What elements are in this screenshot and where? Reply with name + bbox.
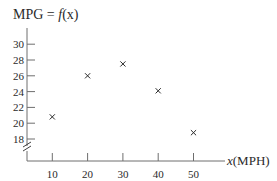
y-tick-label: 26: [13, 70, 25, 82]
scatter-chart: MPG = f(x) 18202224262830 1020304050 x(M…: [0, 0, 277, 181]
title-lhs: MPG =: [13, 7, 58, 22]
data-point-x-marker: [85, 73, 90, 78]
chart-title: MPG = f(x): [13, 7, 79, 23]
x-axis-ticks: 1020304050: [47, 153, 200, 180]
x-tick-label: 50: [188, 168, 200, 180]
x-axis-unit: (MPH): [233, 153, 270, 168]
y-tick-label: 18: [13, 133, 25, 145]
x-axis-label: x(MPH): [226, 153, 270, 168]
x-tick-label: 20: [82, 168, 94, 180]
x-tick-label: 10: [47, 168, 59, 180]
axes: [23, 28, 225, 161]
y-tick-label: 20: [13, 117, 25, 129]
data-point-x-marker: [50, 114, 55, 119]
data-point-x-marker: [120, 61, 125, 66]
data-point-x-marker: [191, 130, 196, 135]
data-points: [50, 61, 196, 135]
data-point-x-marker: [156, 88, 161, 93]
y-tick-label: 28: [13, 54, 25, 66]
y-tick-label: 24: [13, 86, 25, 98]
title-argument: (x): [62, 7, 79, 23]
x-tick-label: 30: [117, 168, 129, 180]
y-tick-label: 30: [13, 38, 25, 50]
y-axis-ticks: 18202224262830: [13, 38, 35, 145]
svg-text:MPG = f(x): MPG = f(x): [13, 7, 79, 23]
svg-text:x(MPH): x(MPH): [226, 153, 270, 168]
y-tick-label: 22: [13, 101, 24, 113]
x-tick-label: 40: [153, 168, 165, 180]
